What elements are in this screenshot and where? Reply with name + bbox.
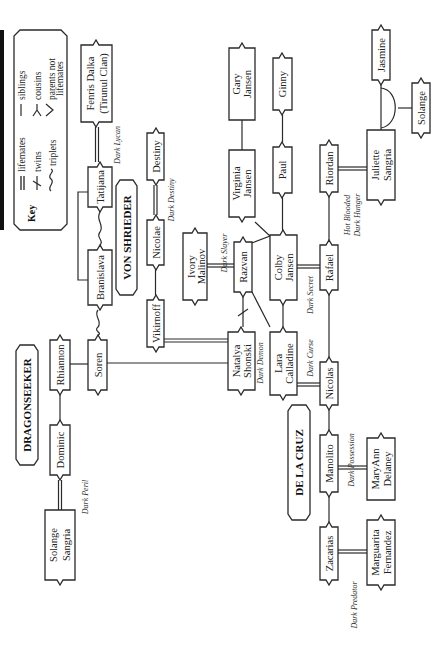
family-label-dragonseeker: DRAGONSEEKER <box>16 345 38 465</box>
person-virginia-jansen: Virginia Jansen <box>229 150 255 222</box>
person-solange: Solange <box>412 78 430 138</box>
svg-text:(Tirunul Clan): (Tirunul Clan) <box>98 53 110 114</box>
person-rhiannon: Rhiannon <box>50 335 70 395</box>
person-nicolae: Nicolae <box>147 215 164 270</box>
person-marguarita-fernandez: Marguarita Fernandez <box>367 515 395 590</box>
svg-text:Zacarias: Zacarias <box>324 536 335 572</box>
person-natalya-shonski: Natalya Shonski <box>228 327 255 395</box>
person-colby-jansen: Colby Jansen <box>270 230 297 305</box>
svg-text:Jasmine: Jasmine <box>376 38 387 72</box>
person-ginny: Ginny <box>273 53 292 115</box>
svg-text:Solange: Solange <box>416 91 427 125</box>
svg-text:DRAGONSEEKER: DRAGONSEEKER <box>21 357 33 452</box>
person-paul: Paul <box>273 142 292 198</box>
person-razvan: Razvan <box>234 237 252 297</box>
svg-text:Juliette: Juliette <box>370 149 381 180</box>
book-dark-secret: Dark Secret <box>306 275 315 315</box>
person-vikirnoff: Vikirnoff <box>147 295 164 352</box>
svg-text:Rhiannon: Rhiannon <box>55 344 66 386</box>
svg-text:Vikirnoff: Vikirnoff <box>151 304 162 343</box>
svg-text:Solange: Solange <box>48 528 59 562</box>
svg-text:Jansen: Jansen <box>242 69 253 98</box>
book-dark-lycan: Dark Lycan <box>113 126 122 165</box>
person-riordan: Riordan <box>320 140 338 197</box>
family-label-de-la-cruz: DE LA CRUZ <box>288 405 310 520</box>
svg-text:DE LA CRUZ: DE LA CRUZ <box>293 429 305 496</box>
person-zacarias: Zacarias <box>320 522 338 585</box>
book-dark-peril: Dark Peril <box>81 479 90 515</box>
svg-text:Virginia: Virginia <box>231 166 242 201</box>
svg-text:Branislava: Branislava <box>95 255 106 300</box>
svg-text:MaryAnn: MaryAnn <box>370 448 381 490</box>
person-jasmine: Jasmine <box>372 25 390 85</box>
book-dark-destiny: Dark Destiny <box>167 178 176 222</box>
person-ivory-malinov: Ivory Malinov <box>183 228 207 305</box>
key-siblings-label: siblings <box>17 70 27 100</box>
svg-text:Nicolas: Nicolas <box>324 367 335 399</box>
person-lara-calladine: Lara Calladine <box>270 327 297 400</box>
svg-text:Ginny: Ginny <box>277 70 288 97</box>
svg-text:Calladine: Calladine <box>284 343 295 384</box>
person-dominic: Dominic <box>50 420 70 480</box>
person-maryann-delaney: MaryAnn Delaney <box>367 433 395 500</box>
book-dark-curse: Dark Curse <box>306 339 315 378</box>
svg-text:Soren: Soren <box>93 352 104 377</box>
svg-text:Gary: Gary <box>231 73 242 95</box>
person-tatijana: Tatijana <box>88 162 112 212</box>
book-dark-slayer: Dark Slayer <box>220 233 229 274</box>
svg-text:Razvan: Razvan <box>238 251 249 283</box>
page-edge-bar <box>0 30 4 230</box>
key-lifemates-label: lifemates <box>17 137 27 172</box>
person-gary-jansen: Gary Jansen <box>229 43 255 120</box>
person-soren: Soren <box>88 335 107 395</box>
book-dark-predator: Dark Predator <box>350 581 359 630</box>
svg-text:Marguarita: Marguarita <box>370 529 381 576</box>
book-dark-hunger: Dark Hunger <box>353 193 362 238</box>
svg-text:Jansen: Jansen <box>242 169 253 198</box>
svg-text:Jansen: Jansen <box>284 253 295 282</box>
person-juliette-sangria: Juliette Sangria <box>367 130 395 205</box>
svg-text:Fernandez: Fernandez <box>382 530 393 574</box>
svg-text:Malinov: Malinov <box>196 248 207 284</box>
legend-key: Key lifemates twins triplets siblings co… <box>14 30 67 230</box>
svg-text:Delaney: Delaney <box>382 451 393 487</box>
key-triplets-label: triplets <box>48 139 58 166</box>
person-rafael: Rafael <box>320 240 338 295</box>
svg-text:Colby: Colby <box>273 254 284 280</box>
key-twins-label: twins <box>33 151 43 172</box>
key-title: Key <box>26 205 37 222</box>
book-dark-possession: Dark Possession <box>347 433 356 488</box>
svg-text:Dominic: Dominic <box>55 431 66 468</box>
svg-text:Tatijana: Tatijana <box>95 170 106 204</box>
key-parents-label-2: lifemates <box>55 61 65 96</box>
svg-text:Fenris Dalka: Fenris Dalka <box>85 56 96 110</box>
book-dark-demon: Dark Demon <box>256 342 265 385</box>
person-fenris-dalka: Fenris Dalka (Tirunul Clan) <box>81 40 112 127</box>
svg-text:Paul: Paul <box>277 161 288 180</box>
family-tree-diagram: Key lifemates twins triplets siblings co… <box>0 0 442 646</box>
svg-text:VON SHRIEDER: VON SHRIEDER <box>121 194 133 279</box>
svg-text:Sangria: Sangria <box>382 149 393 181</box>
svg-text:Destiny: Destiny <box>151 139 162 172</box>
svg-text:Sangria: Sangria <box>61 529 72 561</box>
person-branislava: Branislava <box>88 245 112 310</box>
svg-text:Shonski: Shonski <box>242 344 253 378</box>
svg-text:Rafael: Rafael <box>324 254 335 281</box>
person-destiny: Destiny <box>147 128 164 185</box>
person-solange-sangria: Solange Sangria <box>45 510 75 585</box>
svg-text:Natalya: Natalya <box>231 344 242 377</box>
key-cousins-label: cousins <box>33 71 43 100</box>
person-nicolas: Nicolas <box>320 357 338 410</box>
svg-text:Riordan: Riordan <box>324 151 335 186</box>
person-manolito: Manolito <box>320 430 338 497</box>
book-hot-blooded: Hot Blooded <box>343 194 352 237</box>
svg-text:Nicolae: Nicolae <box>151 226 162 259</box>
svg-text:Lara: Lara <box>273 354 284 374</box>
family-label-von-shrieder: VON SHRIEDER <box>116 180 137 295</box>
svg-text:Manolito: Manolito <box>324 444 335 483</box>
